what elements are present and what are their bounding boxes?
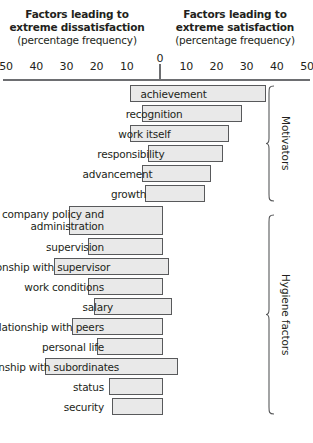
bar-label: supervision — [46, 241, 104, 253]
bar-row: relationship with supervisor — [0, 258, 260, 275]
bar-row: salary — [0, 298, 260, 315]
bar-row: growth — [0, 185, 260, 202]
bar-row: achievement — [0, 85, 260, 102]
right-title-line3: (percentage frequency) — [160, 34, 310, 47]
bar-label: security — [64, 401, 104, 413]
left-axis-title: Factors leading to extreme dissatisfacti… — [2, 8, 152, 47]
axis-tick-right-10: 10 — [179, 60, 193, 73]
bar-label: personal life — [42, 341, 104, 353]
bar-row: recognition — [0, 105, 260, 122]
bar-row: security — [0, 398, 260, 415]
bar[interactable] — [97, 338, 163, 355]
bar[interactable] — [112, 398, 163, 415]
hygiene-factors-label: Hygiene factors — [280, 274, 292, 355]
axis-baseline — [3, 79, 310, 81]
left-title-line3: (percentage frequency) — [2, 34, 152, 47]
right-axis-title: Factors leading to extreme satisfaction … — [160, 8, 310, 47]
left-title-line1: Factors leading to — [2, 8, 152, 21]
bar-row: relationship with peers — [0, 318, 260, 335]
right-title-line2: extreme satisfaction — [160, 21, 310, 34]
left-title-line2: extreme dissatisfaction — [2, 21, 152, 34]
bar-label: work itself — [118, 128, 170, 140]
bar-label: relationship with subordinates — [0, 361, 119, 373]
bar-row: company policy and administration — [0, 206, 260, 235]
bar-row: work itself — [0, 125, 260, 142]
bar-row: relationship with subordinates — [0, 358, 260, 375]
motivators-label: Motivators — [280, 116, 292, 171]
motivators-brace — [266, 85, 278, 202]
chart-container: Factors leading to extreme dissatisfacti… — [0, 0, 313, 443]
bar-label: achievement — [141, 88, 207, 100]
axis-tick-left-40: 40 — [29, 60, 43, 73]
hygiene-factors-brace — [266, 214, 278, 415]
axis-tick-left-50: 50 — [0, 60, 13, 73]
bar-label: relationship with supervisor — [0, 261, 110, 273]
bar-label: responsibility — [97, 148, 164, 160]
axis-tick-labels: 50403020101020304050 — [0, 60, 313, 76]
axis-tick-left-30: 30 — [60, 60, 74, 73]
axis-tick-right-40: 40 — [270, 60, 284, 73]
bar-row: work conditions — [0, 278, 260, 295]
bar-row: advancement — [0, 165, 260, 182]
axis-tick-right-50: 50 — [300, 60, 313, 73]
bar-label: relationship with peers — [0, 321, 104, 333]
right-title-line1: Factors leading to — [160, 8, 310, 21]
bar-row: supervision — [0, 238, 260, 255]
axis-tick-right-30: 30 — [240, 60, 254, 73]
zero-tick-mark — [159, 64, 161, 80]
bar-label: status — [73, 381, 104, 393]
axis-tick-right-20: 20 — [210, 60, 224, 73]
bar-label: growth — [111, 188, 146, 200]
bar[interactable] — [145, 185, 205, 202]
bar-label: company policy and administration — [0, 208, 104, 232]
axis-tick-left-20: 20 — [90, 60, 104, 73]
bar-label: salary — [83, 301, 114, 313]
axis-tick-left-10: 10 — [120, 60, 134, 73]
bar-row: personal life — [0, 338, 260, 355]
bar-label: work conditions — [24, 281, 104, 293]
bar-row: status — [0, 378, 260, 395]
bar[interactable] — [109, 378, 163, 395]
bar-row: responsibility — [0, 145, 260, 162]
bar-label: recognition — [126, 108, 183, 120]
bar-label: advancement — [82, 168, 152, 180]
